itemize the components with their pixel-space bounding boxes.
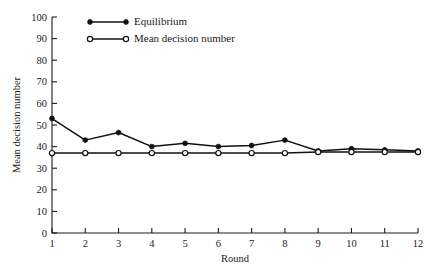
data-point-open [216,150,221,155]
legend-marker-open [123,36,128,41]
data-point-filled [283,138,288,143]
x-tick-label: 7 [249,238,254,249]
x-tick-label: 6 [216,238,221,249]
data-point-open [316,149,321,154]
y-tick-label: 90 [37,33,48,44]
data-point-filled [50,116,55,121]
y-axis-ticks: 0102030405060708090100 [31,12,57,239]
y-tick-label: 30 [37,163,48,174]
y-axis-title: Mean decision number [11,76,22,173]
data-point-open [149,150,154,155]
chart-axes [52,17,418,233]
data-point-open [349,149,354,154]
line-chart: 0102030405060708090100 123456789101112 E… [0,0,437,273]
y-tick-label: 0 [42,228,47,239]
data-point-open [282,150,287,155]
data-point-open [249,150,254,155]
x-tick-label: 12 [413,238,424,249]
legend-label-1: Equilibrium [134,15,188,27]
x-tick-label: 11 [380,238,390,249]
x-axis-title: Round [221,253,250,264]
x-tick-label: 1 [49,238,54,249]
data-point-filled [216,144,221,149]
axis-lines [52,17,418,233]
y-tick-label: 60 [37,98,48,109]
chart-series [49,116,420,156]
x-tick-label: 10 [346,238,357,249]
series-line-2 [52,152,418,153]
chart-container: 0102030405060708090100 123456789101112 E… [0,0,437,273]
series-line-1 [52,119,418,151]
x-tick-label: 2 [83,238,88,249]
y-tick-label: 100 [31,12,47,23]
legend-label-2: Mean decision number [134,32,235,44]
x-tick-label: 5 [182,238,187,249]
data-point-filled [83,138,88,143]
data-point-filled [116,130,121,135]
y-tick-label: 50 [37,120,48,131]
chart-legend: EquilibriumMean decision number [87,15,235,44]
data-point-open [83,150,88,155]
data-point-open [182,150,187,155]
y-tick-label: 20 [37,184,48,195]
legend-marker-filled [88,20,93,25]
x-tick-label: 3 [116,238,121,249]
data-point-open [382,149,387,154]
data-point-open [116,150,121,155]
y-tick-label: 70 [37,76,48,87]
data-point-open [415,149,420,154]
x-tick-label: 4 [149,238,155,249]
data-point-filled [249,143,254,148]
y-tick-label: 10 [37,206,48,217]
x-axis-ticks: 123456789101112 [49,228,423,249]
y-tick-label: 40 [37,141,48,152]
x-tick-label: 8 [282,238,287,249]
data-point-filled [183,141,188,146]
legend-marker-open [87,36,92,41]
data-point-filled [149,144,154,149]
legend-marker-filled [124,20,129,25]
y-tick-label: 80 [37,55,48,66]
data-point-open [49,150,54,155]
x-tick-label: 9 [316,238,321,249]
